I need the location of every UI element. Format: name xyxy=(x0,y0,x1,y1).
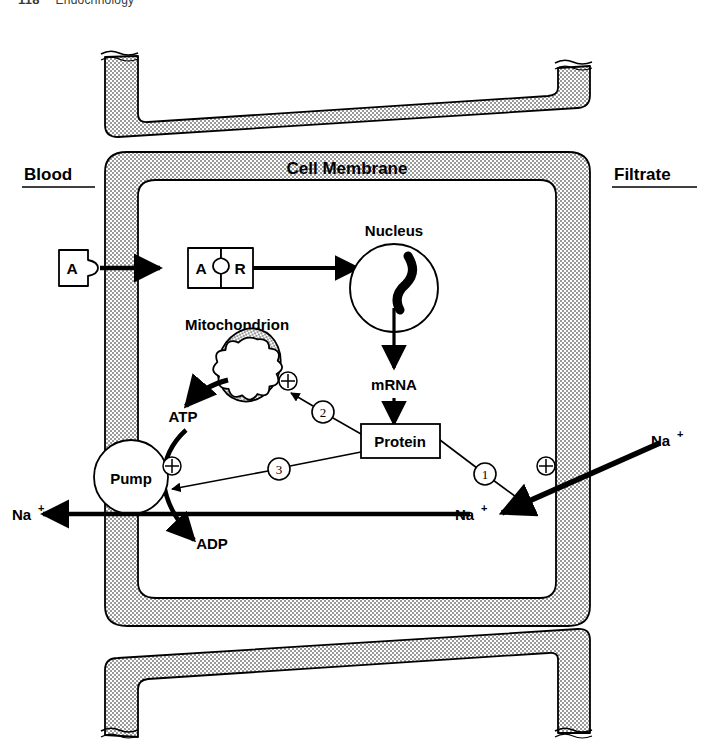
aldosterone-label: A xyxy=(66,260,77,277)
sodium-cytosol-text: Na xyxy=(455,506,475,523)
sodium-blood-charge: + xyxy=(38,502,44,514)
step-2-pathway: 2 xyxy=(279,372,361,434)
step-3-pathway: 3 xyxy=(163,452,361,489)
mrna-label: mRNA xyxy=(371,376,417,393)
cristae-shape xyxy=(206,327,289,408)
aldosterone-receptor-complex: A R xyxy=(188,248,253,288)
bound-aldosterone-label: A xyxy=(195,260,206,277)
protein-label: Protein xyxy=(374,433,426,450)
step-3-number: 3 xyxy=(276,462,283,477)
filtrate-label: Filtrate xyxy=(614,165,671,184)
sodium-filtrate-charge: + xyxy=(677,428,683,440)
nucleus-label: Nucleus xyxy=(365,222,423,239)
aldosterone-cell-diagram: Cell Membrane Blood Filtrate A A R Nucle… xyxy=(0,0,714,753)
cell-membrane xyxy=(105,152,590,626)
sodium-cytosol-label: Na + xyxy=(455,502,487,523)
sodium-cytosol-charge: + xyxy=(481,502,487,514)
figure-page: 118Endocrinology xyxy=(0,0,714,753)
mitochondrion: Mitochondrion xyxy=(185,316,290,410)
sodium-pump: Pump xyxy=(94,440,168,514)
sodium-filtrate-text: Na xyxy=(651,432,671,449)
pump-label: Pump xyxy=(110,470,152,487)
filtrate-label-group: Filtrate xyxy=(612,165,697,187)
blood-label: Blood xyxy=(24,165,72,184)
protein-box: Protein xyxy=(361,424,440,458)
lower-neighbor-cell xyxy=(101,629,592,738)
adp-label: ADP xyxy=(196,535,228,552)
atp-label: ATP xyxy=(169,408,198,425)
mitochondrion-to-atp-arrow xyxy=(186,380,228,406)
step-1-number: 1 xyxy=(482,467,489,482)
sodium-blood-label: Na + xyxy=(12,502,44,523)
aldosterone-molecule: A xyxy=(59,250,98,286)
blood-label-group: Blood xyxy=(22,165,95,187)
mitochondrion-label: Mitochondrion xyxy=(185,316,289,333)
cell-membrane-label: Cell Membrane xyxy=(287,159,408,178)
sodium-filtrate-label: Na + xyxy=(651,428,683,449)
receptor-label: R xyxy=(234,260,245,277)
upper-neighbor-cell xyxy=(101,51,592,137)
step-2-number: 2 xyxy=(320,405,327,420)
sodium-blood-text: Na xyxy=(12,506,32,523)
